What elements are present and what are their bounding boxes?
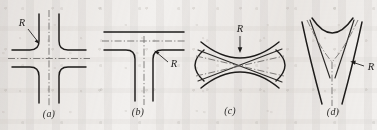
road-edge-se <box>59 67 86 103</box>
panel-c-caption: (c) <box>210 105 250 116</box>
dimension-label-d: R <box>367 61 375 72</box>
road-edge-crown-d <box>312 18 353 33</box>
panel-a-drawing: R <box>0 0 98 112</box>
dimension-label-c: R <box>236 23 244 34</box>
road-rail-a2-c <box>198 49 282 81</box>
dimension-arrowhead-c <box>238 47 243 53</box>
road-edge-outer-left-d <box>302 22 322 104</box>
road-edge-ne <box>59 14 86 50</box>
panel-b-caption: (b) <box>118 106 158 117</box>
figure-root: R (a) R (b) R (c) <box>0 0 377 130</box>
panel-b-drawing: R <box>98 0 190 112</box>
dimension-label-b: R <box>170 58 178 69</box>
panel-d-drawing: R <box>290 0 377 112</box>
panel-c-drawing: R <box>190 0 290 112</box>
dimension-label-a: R <box>18 17 26 28</box>
road-edge-nw <box>12 14 39 50</box>
road-edge-sw <box>12 67 39 103</box>
road-edge-left-fillet-b <box>104 50 135 101</box>
road-edge-right-fillet-b <box>153 50 184 101</box>
panel-a-caption: (a) <box>29 108 69 119</box>
road-edge-bottom-c <box>201 72 279 88</box>
road-rail-a1-c <box>198 50 282 82</box>
panel-d-caption: (d) <box>313 106 353 117</box>
road-edge-outer-right-d <box>342 22 362 104</box>
